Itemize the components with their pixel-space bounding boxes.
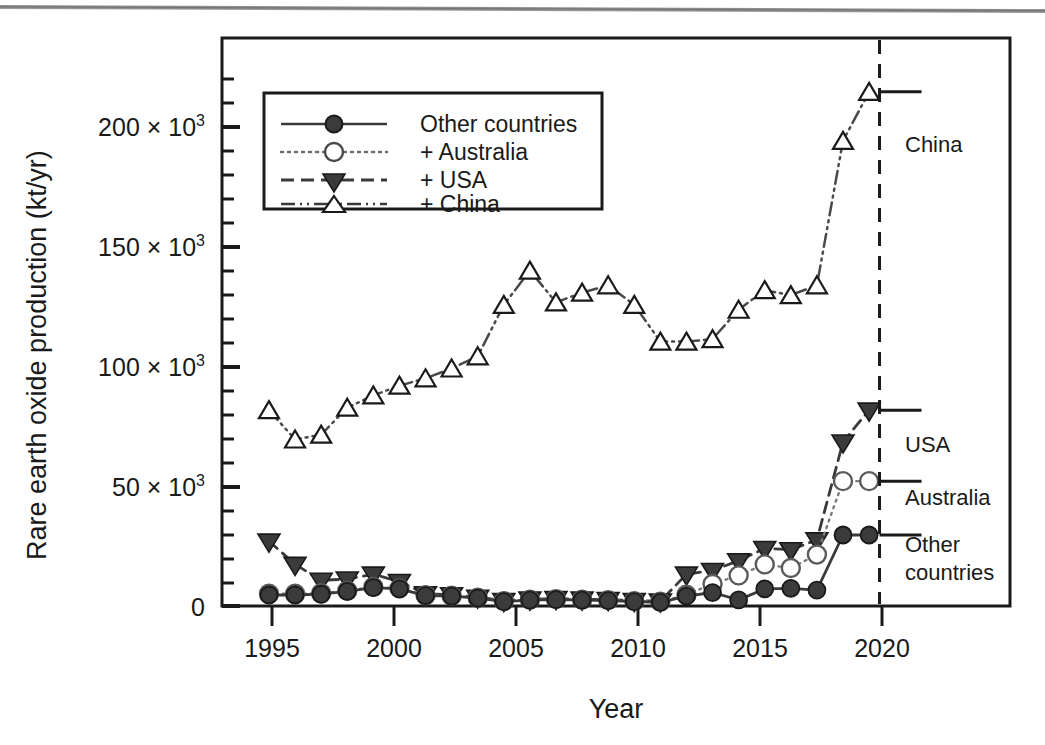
annotation-other-line1: Other <box>905 532 960 557</box>
x-axis-ticks <box>272 606 882 626</box>
data-point-other-countries-2007 <box>547 591 564 608</box>
data-point-other-countries-2012 <box>678 588 695 605</box>
y-tick-label-200: 200 × 10 <box>98 113 196 141</box>
x-tick-labels: 1995 2000 2005 2010 2015 2020 <box>244 634 910 662</box>
data-point-china-2018 <box>833 132 853 149</box>
data-point-australia-2017 <box>808 546 826 564</box>
data-point-australia-2014 <box>730 566 748 584</box>
x-tick-label-2015: 2015 <box>732 634 788 662</box>
y-tick-labels: 200 × 103 150 × 103 100 × 103 50 × 103 0 <box>98 112 205 621</box>
y-tick-exp-50: 3 <box>196 472 205 489</box>
data-point-china-2005 <box>494 296 514 313</box>
annotation-usa: USA <box>905 432 951 457</box>
data-point-china-2015 <box>755 281 775 298</box>
data-point-china-2002 <box>416 369 436 386</box>
x-tick-label-2005: 2005 <box>488 634 544 662</box>
data-point-other-countries-2017 <box>808 582 825 599</box>
data-point-other-countries-2000 <box>365 579 382 596</box>
data-point-other-countries-2001 <box>391 580 408 597</box>
data-point-china-2000 <box>363 386 383 403</box>
data-point-china-2009 <box>598 276 618 293</box>
data-point-other-countries-2010 <box>626 593 643 610</box>
annotation-australia: Australia <box>905 485 991 510</box>
y-axis-title: Rare earth oxide production (kt/yr) <box>22 150 52 560</box>
data-point-other-countries-2008 <box>574 592 591 609</box>
data-point-china-2010 <box>624 296 644 313</box>
data-point-other-countries-1996 <box>260 586 277 603</box>
svg-text:50 × 103: 50 × 103 <box>112 472 205 501</box>
data-point-china-1996 <box>259 401 279 418</box>
y-tick-label-100: 100 × 10 <box>98 353 196 381</box>
data-point-other-countries-2016 <box>782 580 799 597</box>
data-point-china-2016 <box>781 286 801 303</box>
legend-label-usa: + USA <box>420 167 488 193</box>
annotation-other-line2: countries <box>905 560 994 585</box>
data-point-other-countries-2004 <box>469 590 486 607</box>
data-point-china-2004 <box>468 347 488 364</box>
data-point-other-countries-2009 <box>600 592 617 609</box>
y-tick-exp-200: 3 <box>196 112 205 129</box>
data-point-other-countries-1997 <box>287 586 304 603</box>
data-point-china-2007 <box>546 293 566 310</box>
data-point-china-1999 <box>337 399 357 416</box>
figure-root: Rare earth oxide production (kt/yr) 200 … <box>0 0 1045 745</box>
data-point-usa-2018 <box>832 435 854 453</box>
data-point-other-countries-2011 <box>652 594 669 611</box>
data-point-australia-2018 <box>834 472 852 490</box>
y-tick-exp-100: 3 <box>196 352 205 369</box>
y-tick-exp-150: 3 <box>196 232 205 249</box>
data-point-other-countries-2019 <box>861 527 878 544</box>
x-tick-label-2010: 2010 <box>610 634 666 662</box>
data-point-other-countries-2005 <box>495 593 512 610</box>
data-point-other-countries-1999 <box>339 583 356 600</box>
svg-text:200 × 103: 200 × 103 <box>98 112 205 141</box>
x-tick-label-2000: 2000 <box>366 634 422 662</box>
data-point-china-2006 <box>520 262 540 279</box>
rare-earth-production-chart: Rare earth oxide production (kt/yr) 200 … <box>0 0 1045 745</box>
data-point-other-countries-2015 <box>756 580 773 597</box>
data-point-china-2003 <box>442 360 462 377</box>
band-bracket-group <box>880 40 922 604</box>
data-point-other-countries-2014 <box>730 591 747 608</box>
filled-circle-icon <box>326 116 343 133</box>
x-axis-title: Year <box>589 694 644 724</box>
open-circle-icon <box>325 143 343 161</box>
y-tick-label-50: 50 × 10 <box>112 473 196 501</box>
svg-text:100 × 103: 100 × 103 <box>98 352 205 381</box>
y-tick-label-0: 0 <box>191 593 205 621</box>
data-point-china-2008 <box>572 284 592 301</box>
data-point-australia-2016 <box>782 559 800 577</box>
y-axis-ticks <box>222 79 240 606</box>
x-tick-label-2020: 2020 <box>854 634 910 662</box>
line-path-usa <box>269 410 869 601</box>
data-point-china-1997 <box>285 431 305 448</box>
legend-label-other-countries: Other countries <box>420 111 577 137</box>
data-point-other-countries-2002 <box>417 587 434 604</box>
svg-text:150 × 103: 150 × 103 <box>98 232 205 261</box>
data-point-china-2019 <box>859 83 879 100</box>
data-point-china-2001 <box>389 377 409 394</box>
y-tick-label-150: 150 × 10 <box>98 233 196 261</box>
data-point-other-countries-2006 <box>521 592 538 609</box>
annotation-china: China <box>905 132 963 157</box>
chart-legend[interactable]: Other countries + Australia + USA + Chin… <box>264 93 602 217</box>
data-point-other-countries-2003 <box>443 588 460 605</box>
legend-label-china: + China <box>420 191 500 217</box>
data-point-usa-1997 <box>284 557 306 575</box>
data-point-other-countries-1998 <box>313 586 330 603</box>
data-point-china-2017 <box>807 276 827 293</box>
legend-label-australia: + Australia <box>420 139 528 165</box>
data-point-australia-2015 <box>756 555 774 573</box>
data-point-other-countries-2013 <box>704 584 721 601</box>
x-tick-label-1995: 1995 <box>244 634 300 662</box>
line-path-australia <box>269 481 869 601</box>
band-annotations: China USA Australia Other countries <box>905 132 994 585</box>
data-point-usa-2019 <box>858 403 880 421</box>
data-point-other-countries-2018 <box>835 527 852 544</box>
line-path-other-countries <box>269 535 869 602</box>
data-point-australia-2019 <box>860 472 878 490</box>
